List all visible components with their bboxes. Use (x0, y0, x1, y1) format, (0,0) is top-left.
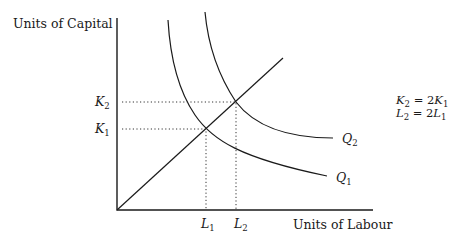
label-k1: K1 (94, 121, 110, 138)
equation-l: L2 = 2L1 (395, 106, 446, 122)
label-q1: Q1 (336, 170, 352, 187)
axes (117, 18, 373, 210)
isoquant-q1 (168, 20, 327, 176)
label-q2: Q2 (342, 131, 358, 148)
label-k2: K2 (94, 94, 110, 111)
guide-k1-l1 (122, 129, 206, 210)
isoquant-diagram: Units of Capital Units of Labour K2 K1 L… (0, 0, 451, 239)
y-axis-title: Units of Capital (13, 16, 113, 31)
label-l1: L1 (200, 216, 215, 233)
expansion-path-ray (117, 58, 283, 210)
x-axis-title: Units of Labour (293, 217, 392, 232)
isoquant-q2 (205, 12, 333, 138)
label-l2: L2 (233, 216, 248, 233)
guide-k2-l2 (122, 102, 236, 210)
